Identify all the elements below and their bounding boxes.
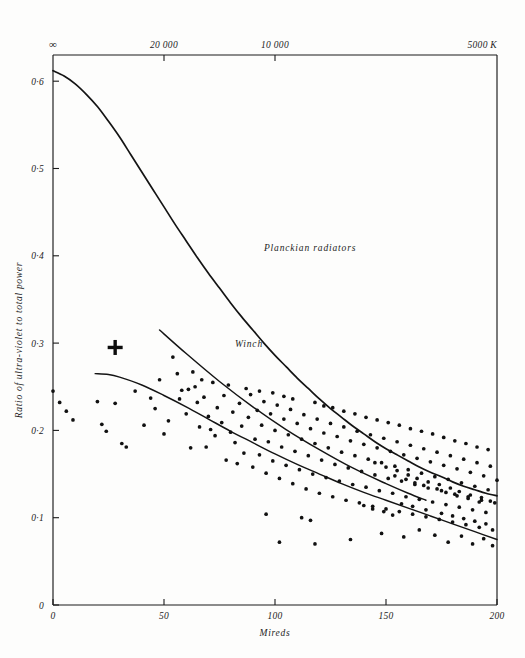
data-point bbox=[437, 518, 441, 522]
y-tick-label: 0·5 bbox=[31, 164, 44, 174]
curve-mean-observed-curve bbox=[95, 374, 497, 540]
y-axis-title: Ratio of ultra-violet to total power bbox=[14, 262, 24, 419]
data-point bbox=[358, 501, 362, 505]
data-point bbox=[480, 496, 484, 500]
data-point bbox=[415, 456, 419, 460]
annotation-winch: Winch bbox=[235, 339, 263, 349]
data-point bbox=[180, 388, 184, 392]
data-point bbox=[469, 470, 473, 474]
data-point bbox=[453, 439, 457, 443]
data-point bbox=[364, 485, 368, 489]
data-point bbox=[484, 522, 488, 526]
data-point bbox=[346, 466, 350, 470]
data-point bbox=[475, 445, 479, 449]
data-point bbox=[189, 446, 193, 450]
x-axis-title: Mireds bbox=[259, 628, 291, 638]
data-point bbox=[193, 385, 197, 389]
data-point bbox=[120, 442, 124, 446]
data-point bbox=[240, 424, 244, 428]
data-point bbox=[313, 442, 317, 446]
data-point bbox=[466, 497, 470, 501]
data-point bbox=[391, 491, 395, 495]
data-point bbox=[238, 401, 242, 405]
data-point bbox=[411, 505, 415, 509]
data-point bbox=[271, 391, 275, 395]
data-point bbox=[258, 453, 262, 457]
data-point bbox=[313, 542, 317, 546]
data-point bbox=[220, 421, 224, 425]
tick-labels-group: 05010015020000·10·20·30·40·50·6∞20 00010… bbox=[31, 38, 504, 621]
data-point bbox=[342, 409, 346, 413]
data-point bbox=[444, 503, 448, 507]
data-point bbox=[475, 461, 479, 465]
data-point bbox=[258, 389, 262, 393]
data-point bbox=[457, 490, 461, 494]
data-point bbox=[222, 394, 226, 398]
data-point bbox=[429, 460, 433, 464]
data-point bbox=[295, 422, 299, 426]
data-point bbox=[344, 498, 348, 502]
data-point bbox=[435, 450, 439, 454]
data-point bbox=[400, 479, 404, 483]
x-tick-label: 150 bbox=[378, 611, 393, 621]
data-point bbox=[302, 413, 306, 417]
data-point bbox=[393, 464, 397, 468]
data-point bbox=[247, 415, 251, 419]
data-point bbox=[187, 388, 191, 392]
data-point bbox=[322, 404, 326, 408]
data-point bbox=[362, 443, 366, 447]
data-point bbox=[409, 443, 413, 447]
data-point bbox=[440, 489, 444, 493]
data-point bbox=[406, 473, 410, 477]
data-point bbox=[235, 462, 239, 466]
data-point bbox=[153, 407, 157, 411]
data-point bbox=[202, 395, 206, 399]
annotation-planckian-radiators: Planckian radiators bbox=[263, 243, 356, 253]
data-point bbox=[446, 540, 450, 544]
data-point bbox=[426, 480, 430, 484]
data-point bbox=[446, 477, 450, 481]
data-point bbox=[420, 429, 424, 433]
data-point bbox=[424, 515, 428, 519]
x-tick-label: 0 bbox=[50, 611, 55, 621]
scatter-points-group bbox=[51, 355, 499, 547]
data-point bbox=[435, 487, 439, 491]
data-point bbox=[167, 419, 171, 423]
data-point bbox=[124, 445, 128, 449]
data-point bbox=[293, 450, 297, 454]
data-point bbox=[395, 469, 399, 473]
data-point bbox=[260, 423, 264, 427]
data-point bbox=[271, 459, 275, 463]
y-tick-label: 0·3 bbox=[31, 339, 44, 349]
data-point bbox=[375, 446, 379, 450]
data-point bbox=[58, 401, 62, 405]
series-lines-group bbox=[53, 71, 497, 540]
data-point bbox=[364, 415, 368, 419]
data-point bbox=[64, 409, 68, 413]
data-point bbox=[404, 477, 408, 481]
data-point bbox=[488, 464, 492, 468]
data-point bbox=[324, 476, 328, 480]
data-point bbox=[380, 461, 384, 465]
data-point bbox=[133, 389, 137, 393]
data-point bbox=[100, 422, 104, 426]
data-point bbox=[404, 495, 408, 499]
data-point bbox=[207, 415, 211, 419]
data-point bbox=[369, 433, 373, 437]
data-point bbox=[284, 463, 288, 467]
data-point bbox=[273, 429, 277, 433]
data-point bbox=[486, 488, 490, 492]
data-point bbox=[209, 428, 213, 432]
top-tick-label: 20 000 bbox=[150, 40, 178, 50]
data-point bbox=[382, 436, 386, 440]
data-point bbox=[371, 507, 375, 511]
data-point bbox=[462, 517, 466, 521]
data-point bbox=[417, 528, 421, 532]
data-point bbox=[282, 395, 286, 399]
data-point bbox=[286, 433, 290, 437]
data-point bbox=[431, 500, 435, 504]
data-point bbox=[300, 437, 304, 441]
data-point bbox=[184, 412, 188, 416]
data-point bbox=[460, 481, 464, 485]
data-point bbox=[449, 454, 453, 458]
